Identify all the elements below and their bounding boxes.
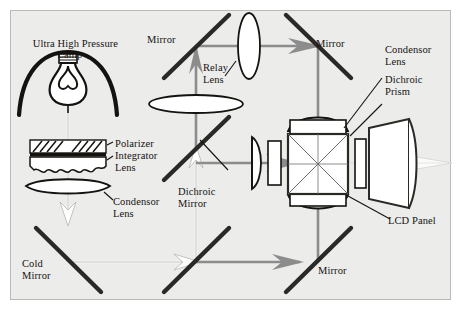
condensor-lens-left-label: Condensor Lens: [113, 196, 159, 219]
relay-lens-flat: [149, 95, 243, 113]
beam-bottom-horizontal: [196, 254, 304, 270]
lcd-panel-top: [290, 120, 346, 134]
integrator-lens: [30, 157, 106, 172]
lamp-label: Ultra High Pressure Lamp: [14, 26, 126, 72]
dichroic-prism: [288, 134, 348, 194]
relay-lens-label: Relay Lens: [203, 62, 228, 85]
lcd-panel-left: [268, 141, 281, 185]
cold-mirror-label: Cold Mirror: [22, 258, 51, 281]
figure-canvas: Ultra High Pressure Lamp Mirror Mirror R…: [0, 0, 461, 317]
lcd-panel-label: LCD Panel: [388, 215, 436, 227]
projection-lens: [369, 119, 417, 208]
dichroic-prism-label: Dichroic Prism: [385, 74, 423, 97]
condensor-lens-left: [26, 179, 110, 193]
lcd-panel-right: [355, 139, 366, 188]
integrator-lens-label: Integrator Lens: [115, 150, 157, 173]
mirror-bottom-right-label: Mirror: [318, 265, 347, 277]
relay-lens: [238, 13, 260, 79]
beam-left-into-prism: [196, 154, 300, 172]
condensor-lens-prism-left: [252, 137, 261, 189]
polarizer-label: Polarizer: [115, 138, 154, 150]
condensor-lens-right-label: Condensor Lens: [385, 44, 431, 67]
dichroic-mirror-label: Dichroic Mirror: [178, 186, 216, 209]
mirror-top-right-label: Mirror: [316, 38, 345, 50]
polarizer: [30, 140, 106, 156]
mirror-top-left-label: Mirror: [147, 34, 176, 46]
beam-cold-to-dichroic: [68, 254, 200, 270]
